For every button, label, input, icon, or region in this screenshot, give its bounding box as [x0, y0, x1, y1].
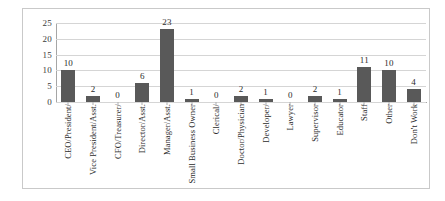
chart-frame: 0510152025 1020623102102111104 CEO/Presi… — [22, 8, 430, 189]
bar-group[interactable]: 23 — [155, 23, 180, 102]
bar-value-label: 1 — [189, 88, 194, 97]
bar-value-label: 0 — [214, 91, 219, 100]
x-axis-category-label: Educator — [336, 104, 345, 135]
y-axis-tick-label: 0 — [47, 98, 52, 107]
x-axis-label-slot: Manager/Asst. — [155, 104, 180, 188]
y-axis-tick-label: 5 — [47, 82, 52, 91]
bar[interactable] — [382, 70, 396, 102]
bar-value-label: 10 — [384, 59, 393, 68]
x-axis-category-labels: CEO/President/Vice President/Asst.CFO/Tr… — [56, 104, 426, 188]
bar[interactable] — [407, 89, 421, 102]
x-axis-category-label: Vice President/Asst. — [89, 104, 98, 175]
y-axis-tick-labels: 0510152025 — [23, 23, 52, 103]
x-axis-label-slot: Developer/ — [253, 104, 278, 188]
plot-area: 1020623102102111104 — [56, 23, 426, 102]
bar[interactable] — [357, 67, 371, 102]
bar-group[interactable]: 2 — [229, 23, 254, 102]
x-axis-label-slot: Vice President/Asst. — [81, 104, 106, 188]
x-axis-label-slot: Educator — [327, 104, 352, 188]
x-axis-category-label: CFO/Treasurer/ — [114, 104, 123, 159]
x-axis-label-slot: Don't Work — [401, 104, 426, 188]
x-axis-label-slot: Other — [377, 104, 402, 188]
x-axis-category-label: CEO/President/ — [64, 104, 73, 159]
bar[interactable] — [160, 29, 174, 102]
x-axis-category-label: Supervisor — [311, 104, 320, 142]
x-axis-category-label: Don't Work — [410, 104, 419, 144]
y-axis-tick-label: 20 — [43, 34, 52, 43]
bar-group[interactable]: 0 — [105, 23, 130, 102]
x-axis-label-slot: Director/Asst. — [130, 104, 155, 188]
x-axis-category-label: Lawyer — [286, 104, 295, 131]
x-axis-category-label: Staff — [360, 104, 369, 121]
bar-group[interactable]: 0 — [204, 23, 229, 102]
bar-value-label: 0 — [288, 91, 293, 100]
x-axis-label-slot: Staff — [352, 104, 377, 188]
y-axis-tick-label: 25 — [43, 19, 52, 28]
y-axis-tick-label: 15 — [43, 50, 52, 59]
x-axis-label-slot: Supervisor — [303, 104, 328, 188]
bar-group[interactable]: 11 — [352, 23, 377, 102]
bar-group[interactable]: 10 — [56, 23, 81, 102]
bar-value-label: 2 — [313, 85, 318, 94]
bar[interactable] — [135, 83, 149, 102]
x-axis-category-label: Developer/ — [262, 104, 271, 143]
y-axis-tick-label: 10 — [43, 66, 52, 75]
bar-value-label: 23 — [162, 18, 171, 27]
bar-value-label: 4 — [411, 78, 416, 87]
bar-value-label: 2 — [91, 85, 96, 94]
x-axis-label-slot: CEO/President/ — [56, 104, 81, 188]
bar-value-label: 6 — [140, 72, 145, 81]
x-axis-category-label: Small Business Owner — [188, 104, 197, 183]
bar-value-label: 2 — [239, 85, 244, 94]
bar-value-label: 1 — [263, 88, 268, 97]
x-axis-label-slot: Small Business Owner — [179, 104, 204, 188]
x-axis-label-slot: CFO/Treasurer/ — [105, 104, 130, 188]
x-axis-label-slot: Doctor/Physician — [229, 104, 254, 188]
bar-group[interactable]: 1 — [179, 23, 204, 102]
bar[interactable] — [61, 70, 75, 102]
bar-group[interactable]: 10 — [377, 23, 402, 102]
bar-value-label: 1 — [337, 88, 342, 97]
x-axis-label-slot: Clerical/ — [204, 104, 229, 188]
bar-group[interactable]: 2 — [303, 23, 328, 102]
bar-group[interactable]: 4 — [401, 23, 426, 102]
x-axis-label-slot: Lawyer — [278, 104, 303, 188]
bar-value-label: 0 — [115, 91, 120, 100]
bar-group[interactable]: 1 — [327, 23, 352, 102]
bar-group[interactable]: 1 — [253, 23, 278, 102]
bar-group[interactable]: 2 — [81, 23, 106, 102]
x-axis-category-label: Other — [385, 104, 394, 124]
bar-value-label: 11 — [360, 56, 369, 65]
bar-group[interactable]: 0 — [278, 23, 303, 102]
bar-value-label: 10 — [64, 59, 73, 68]
x-axis-category-label: Clerical/ — [212, 104, 221, 134]
x-axis-category-label: Director/Asst. — [138, 104, 147, 153]
x-axis-category-label: Doctor/Physician — [237, 104, 246, 165]
x-axis-category-label: Manager/Asst. — [163, 104, 172, 155]
bar-group[interactable]: 6 — [130, 23, 155, 102]
